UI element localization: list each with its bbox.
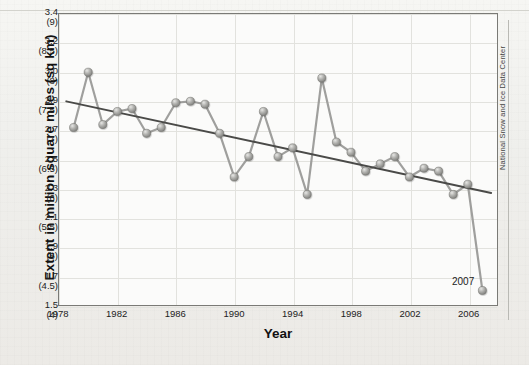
y-tick-secondary: (7.5) <box>22 105 58 115</box>
series-line-path <box>74 72 483 290</box>
data-point-marker <box>435 167 443 175</box>
chart-svg <box>59 14 497 305</box>
series-markers <box>70 68 487 294</box>
data-point-marker <box>464 180 472 188</box>
y-axis-tick: 2.1(5.5) <box>22 212 58 232</box>
y-tick-secondary: (6.5) <box>22 164 58 174</box>
data-point-marker <box>405 173 413 181</box>
data-point-marker <box>172 99 180 107</box>
y-axis-tick: 2.9(7.5) <box>22 95 58 115</box>
data-point-marker <box>230 173 238 181</box>
y-axis-tick: 3.2(8.5) <box>22 36 58 56</box>
credit-divider <box>508 20 509 320</box>
y-axis-tick: 3.0(8) <box>22 66 58 86</box>
y-tick-secondary: (6) <box>22 193 58 203</box>
data-point-marker <box>70 123 78 131</box>
data-point-marker <box>259 107 267 115</box>
x-axis-title: Year <box>58 326 498 341</box>
plot-area <box>58 13 498 306</box>
data-point-marker <box>274 153 282 161</box>
x-axis-tick: 1978 <box>47 308 68 319</box>
trendline <box>66 101 491 193</box>
x-axis-tick: 1986 <box>165 308 186 319</box>
chart-page: Extent in million square miles (sq km) 3… <box>0 0 529 365</box>
data-point-marker <box>391 153 399 161</box>
y-axis-tick: 2.5(6.5) <box>22 154 58 174</box>
data-point-marker <box>157 123 165 131</box>
data-point-marker <box>143 129 151 137</box>
data-point-marker <box>245 153 253 161</box>
y-tick-secondary: (8) <box>22 76 58 86</box>
data-point-marker <box>84 68 92 76</box>
y-axis-tick: 3.4(9) <box>22 7 58 27</box>
source-credit: National Snow and Ice Data Center <box>498 20 507 170</box>
data-point-marker <box>347 148 355 156</box>
trendline-segment <box>66 101 491 193</box>
x-axis-tick: 1998 <box>341 308 362 319</box>
x-axis-tick-labels: 19781982198619901994199820022006 <box>58 308 498 324</box>
y-tick-secondary: (9) <box>22 17 58 27</box>
data-point-marker <box>362 167 370 175</box>
x-axis-tick: 2006 <box>458 308 479 319</box>
y-tick-secondary: (4.5) <box>22 281 58 291</box>
data-point-marker <box>186 97 194 105</box>
top-divider <box>0 10 529 11</box>
data-point-marker <box>216 129 224 137</box>
annotation-2007: 2007 <box>452 276 474 287</box>
y-tick-primary: 2.5 <box>22 154 58 164</box>
data-point-marker <box>113 107 121 115</box>
x-axis-tick: 1982 <box>106 308 127 319</box>
data-point-marker <box>449 190 457 198</box>
y-tick-secondary: (5.5) <box>22 222 58 232</box>
y-tick-secondary: (5) <box>22 251 58 261</box>
data-point-marker <box>478 286 486 294</box>
y-axis-tick: 2.7(7) <box>22 124 58 144</box>
data-point-marker <box>318 74 326 82</box>
series-polyline <box>74 72 483 290</box>
y-tick-secondary: (7) <box>22 134 58 144</box>
data-point-marker <box>376 160 384 168</box>
x-axis-tick: 2002 <box>399 308 420 319</box>
x-axis-tick: 1990 <box>223 308 244 319</box>
data-point-marker <box>128 104 136 112</box>
data-point-marker <box>303 190 311 198</box>
data-point-marker <box>99 121 107 129</box>
y-axis-tick: 2.3(6) <box>22 183 58 203</box>
data-point-marker <box>332 138 340 146</box>
y-axis-tick: 1.7(4.5) <box>22 271 58 291</box>
data-point-marker <box>420 164 428 172</box>
x-axis-tick: 1994 <box>282 308 303 319</box>
data-point-marker <box>201 100 209 108</box>
y-tick-secondary: (8.5) <box>22 46 58 56</box>
data-point-marker <box>289 144 297 152</box>
y-axis-tick: 1.9(5) <box>22 241 58 261</box>
